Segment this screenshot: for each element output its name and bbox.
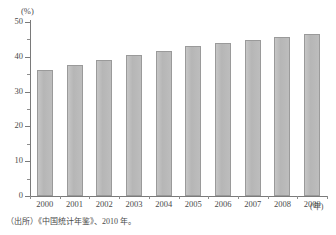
x-tick-label-2006: 2006 — [208, 200, 238, 209]
bar-2001 — [67, 65, 83, 196]
bar-fill — [68, 66, 82, 195]
x-tick-label-2002: 2002 — [89, 200, 119, 209]
x-tick — [208, 196, 209, 199]
y-tick-label-40: 40 — [0, 52, 23, 62]
x-tick-label-2008: 2008 — [267, 200, 297, 209]
y-tick-label-10: 10 — [0, 156, 23, 166]
bar-fill — [186, 47, 200, 195]
y-tick-label-text: 40 — [1, 52, 23, 61]
bar-fill — [275, 38, 289, 195]
bar-fill — [38, 71, 52, 195]
y-tick-label-20: 20 — [0, 121, 23, 131]
plot-area — [30, 22, 328, 196]
bar-chart-figure: (%) 01020304050 200020012002200320042005… — [0, 0, 336, 235]
x-tick — [30, 196, 31, 199]
bar-fill — [97, 61, 111, 195]
x-tick — [238, 196, 239, 199]
x-tick-label-2004: 2004 — [149, 200, 179, 209]
y-tick-label-text: 0 — [1, 191, 23, 200]
y-tick-label-text: 10 — [1, 156, 23, 165]
y-tick-label-50: 50 — [0, 17, 23, 27]
bar-2007 — [245, 40, 261, 196]
bar-fill — [246, 41, 260, 195]
x-tick-label-2000: 2000 — [30, 200, 60, 209]
bar-2003 — [126, 55, 142, 196]
x-tick — [149, 196, 150, 199]
y-tick-label-text: 30 — [1, 87, 23, 96]
bar-fill — [305, 35, 319, 195]
x-tick-label-2003: 2003 — [119, 200, 149, 209]
bar-2005 — [185, 46, 201, 196]
bar-2008 — [274, 37, 290, 196]
y-tick-label-text: 50 — [1, 17, 23, 26]
y-axis-unit-label: (%) — [21, 6, 34, 16]
bar-fill — [216, 44, 230, 195]
x-tick — [327, 196, 328, 199]
x-tick — [268, 196, 269, 199]
source-note: （出所）《中国统计年鉴》、2010 年。 — [6, 215, 136, 226]
x-tick-label-2007: 2007 — [238, 200, 268, 209]
x-tick — [297, 196, 298, 199]
x-tick — [179, 196, 180, 199]
bar-2002 — [96, 60, 112, 196]
bar-2004 — [156, 51, 172, 196]
bar-fill — [157, 52, 171, 195]
bar-2006 — [215, 43, 231, 196]
y-tick-label-30: 30 — [0, 87, 23, 97]
x-tick — [119, 196, 120, 199]
x-tick-label-2001: 2001 — [60, 200, 90, 209]
x-tick — [60, 196, 61, 199]
y-tick-label-text: 20 — [1, 121, 23, 130]
bar-2000 — [37, 70, 53, 196]
x-tick-label-2005: 2005 — [178, 200, 208, 209]
x-axis-unit-label: (年) — [310, 200, 323, 211]
bar-fill — [127, 56, 141, 195]
x-tick — [89, 196, 90, 199]
bar-2009 — [304, 34, 320, 196]
y-tick-label-0: 0 — [0, 191, 23, 201]
